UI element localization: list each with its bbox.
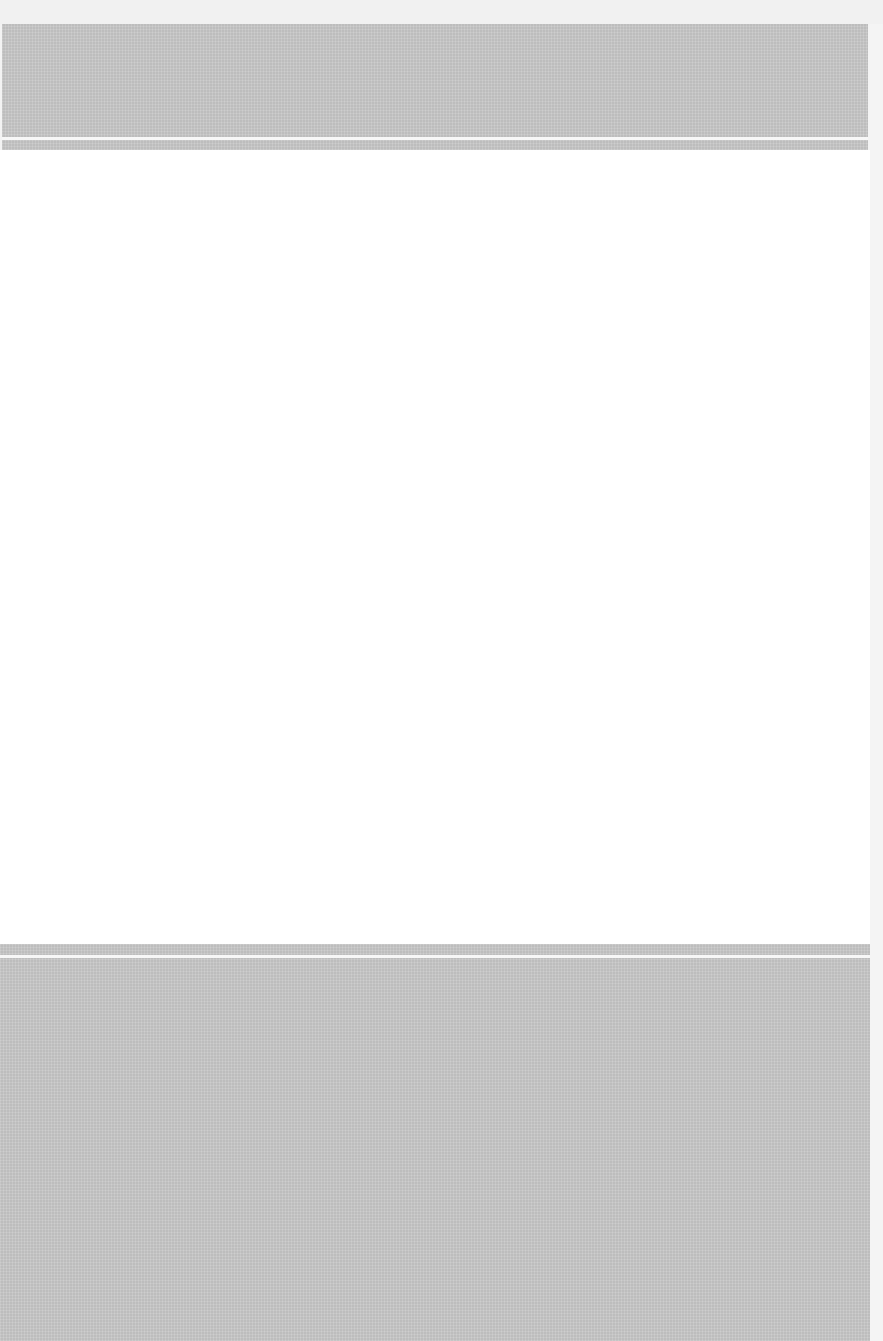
top-band-divider-line <box>2 137 868 140</box>
bottom-band-divider-line <box>0 955 870 958</box>
top-margin-strip <box>0 0 883 24</box>
bottom-gray-band <box>0 944 870 1341</box>
right-page-edge <box>870 24 883 1341</box>
top-gray-band <box>2 24 868 150</box>
blank-page-area <box>0 150 883 944</box>
